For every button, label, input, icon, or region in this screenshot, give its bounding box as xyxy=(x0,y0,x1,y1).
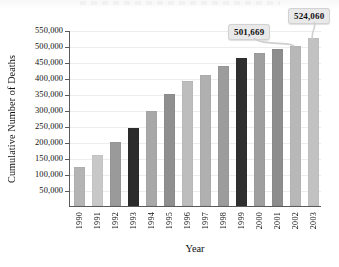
chart-figure: Cumulative Number of Deaths 50,000100,00… xyxy=(0,0,339,267)
callout-leader-2003 xyxy=(0,0,339,267)
